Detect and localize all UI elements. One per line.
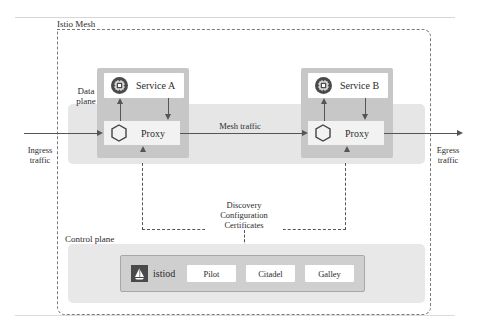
proxy-a-label: Proxy [141, 128, 165, 139]
ingress-traffic-line [24, 133, 98, 134]
chip-icon [315, 77, 332, 94]
arrow-up-icon [321, 98, 327, 104]
arrow-up-icon [344, 146, 350, 152]
arrow-right-icon [457, 130, 463, 136]
egress-line1: Egress [430, 145, 466, 155]
arrow-down-icon [362, 114, 368, 120]
service-a-card[interactable]: Service A [104, 73, 184, 98]
hexagon-icon [315, 124, 331, 142]
ingress-traffic-label: Ingress traffic [22, 145, 58, 165]
control-link-label: Discovery Configuration Certificates [205, 200, 283, 230]
certificates-label: Certificates [205, 220, 283, 230]
component-galley[interactable]: Galley [305, 265, 354, 282]
mesh-label: Istio Mesh [57, 19, 95, 29]
mesh-traffic-label: Mesh traffic [208, 121, 272, 131]
arrow-up-icon [117, 98, 123, 104]
proxy-b-label: Proxy [345, 128, 369, 139]
service-b-to-proxy-line [365, 98, 366, 115]
mesh-traffic-line [180, 133, 303, 134]
component-pilot[interactable]: Pilot [187, 265, 236, 282]
proxy-b-card[interactable]: Proxy [308, 121, 384, 145]
hexagon-icon [111, 124, 127, 142]
discovery-label: Discovery [205, 200, 283, 210]
bottom-divider [15, 315, 455, 316]
istiod-name: istiod [153, 268, 187, 279]
service-a-to-proxy-line [168, 98, 169, 115]
istio-sail-icon [131, 265, 148, 282]
proxy-a-card[interactable]: Proxy [104, 121, 180, 145]
service-a-name: Service A [136, 80, 175, 91]
egress-traffic-label: Egress traffic [430, 145, 466, 165]
chip-icon [111, 77, 128, 94]
configuration-label: Configuration [205, 210, 283, 220]
ingress-line1: Ingress [22, 145, 58, 155]
arrow-up-icon [140, 146, 146, 152]
arrow-down-icon [165, 114, 171, 120]
service-b-name: Service B [340, 80, 379, 91]
egress-traffic-line [384, 133, 458, 134]
egress-line2: traffic [430, 155, 466, 165]
istiod-box[interactable]: istiod Pilot Citadel Galley [120, 255, 365, 292]
proxy-to-service-b-line [324, 104, 325, 121]
proxy-to-service-a-line [120, 104, 121, 121]
top-divider [15, 17, 455, 18]
ingress-line2: traffic [22, 155, 58, 165]
arrow-right-icon [302, 130, 308, 136]
service-b-card[interactable]: Service B [308, 73, 388, 98]
arrow-right-icon [97, 130, 103, 136]
component-citadel[interactable]: Citadel [246, 265, 295, 282]
control-plane-label: Control plane [65, 234, 114, 244]
